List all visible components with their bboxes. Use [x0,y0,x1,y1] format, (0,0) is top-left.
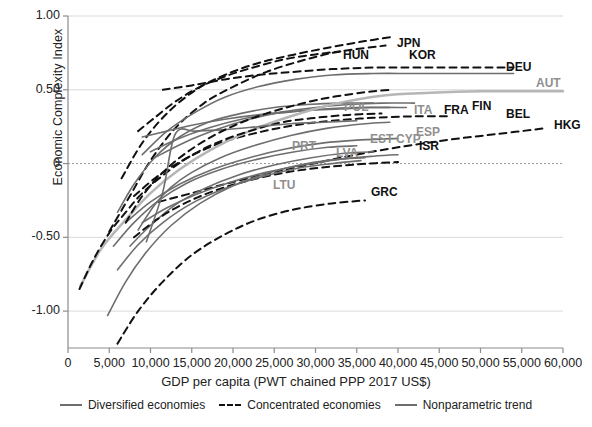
chart-legend: Diversified economiesConcentrated econom… [0,398,592,412]
chart-figure: Economic Complexity Index 1.000.500-0.50… [0,0,592,427]
tick-marks [63,16,563,353]
series-label-aut: AUT [536,76,561,90]
series-label-hun: HUN [343,48,369,62]
series-label-isr: ISR [419,139,439,153]
y-tick-label: 0 [14,156,60,170]
y-tick-label: -0.50 [14,229,60,243]
series-label-grc: GRC [371,185,398,199]
series-label-deu: DEU [506,60,531,74]
legend-item: Diversified economies [60,398,205,412]
series-label-lva: LVA [336,146,358,160]
legend-swatch-icon [219,404,241,406]
series-label-fin: FIN [472,99,491,113]
axis-lines [68,16,563,348]
series-label-kor: KOR [409,48,436,62]
x-axis-title: GDP per capita (PWT chained PPP 2017 US$… [0,374,592,389]
legend-item: Nonparametric trend [395,398,532,412]
series-label-bel: BEL [506,107,530,121]
legend-item: Concentrated economies [219,398,380,412]
y-tick-label: 1.00 [14,8,60,22]
y-tick-label: 0.50 [14,82,60,96]
series-label-est: EST [370,132,393,146]
legend-label: Nonparametric trend [423,398,532,412]
y-tick-label: -1.00 [14,303,60,317]
legend-swatch-icon [395,404,417,406]
legend-swatch-icon [60,404,82,406]
series-label-fra: FRA [444,103,469,117]
legend-label: Concentrated economies [247,398,380,412]
legend-label: Diversified economies [88,398,205,412]
x-tick-label: 60,000 [537,356,589,370]
series-label-ltu: LTU [273,178,295,192]
series-label-hkg: HKG [554,118,581,132]
series-label-cyp: CYP [396,132,421,146]
series-label-ita: ITA [414,103,432,117]
series-label-pol: POL [344,100,369,114]
series-line [109,46,385,232]
series-paths [80,37,564,344]
series-label-prt: PRT [292,139,316,153]
